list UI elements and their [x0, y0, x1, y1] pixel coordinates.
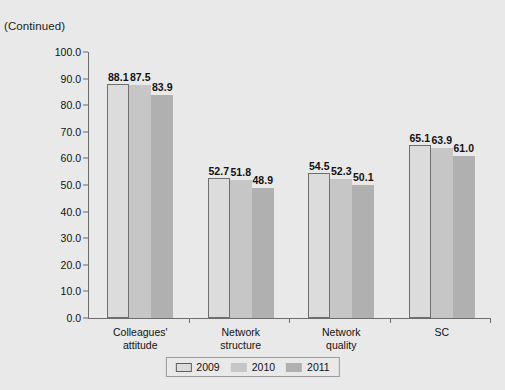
bar-value-label: 54.5	[309, 160, 329, 172]
y-axis-tick-mark	[83, 291, 88, 292]
bar-value-label: 48.9	[253, 174, 273, 186]
x-axis-category-label: SC	[434, 326, 449, 339]
bar-group-bars: 52.751.848.9	[208, 52, 274, 318]
y-axis-tick-mark	[83, 211, 88, 212]
bar-slot: 50.1	[352, 52, 374, 318]
y-axis-tick-mark	[83, 238, 88, 239]
bar[interactable]: 51.8	[230, 180, 252, 318]
bar-chart-figure: 100.090.080.070.060.050.040.030.020.010.…	[0, 40, 505, 390]
bar-group: 65.163.961.0	[409, 52, 475, 318]
bar-slot: 52.7	[208, 52, 230, 318]
bar-group-bars: 54.552.350.1	[308, 52, 374, 318]
y-axis-tick-mark	[83, 78, 88, 79]
bar-slot: 87.5	[129, 52, 151, 318]
bar[interactable]: 52.3	[330, 179, 352, 318]
x-axis-category-label: Network quality	[322, 326, 361, 351]
legend-entry[interactable]: 2009	[175, 361, 219, 373]
bar-slot: 65.1	[409, 52, 431, 318]
legend-swatch-icon	[175, 363, 191, 372]
bar-value-label: 52.3	[331, 165, 351, 177]
y-axis-tick-mark	[83, 158, 88, 159]
bar-value-label: 50.1	[353, 171, 373, 183]
x-axis-category-label: Network structure	[220, 326, 261, 351]
x-axis-tick-mark	[390, 318, 391, 323]
bar-slot: 51.8	[230, 52, 252, 318]
bar-slot: 61.0	[453, 52, 475, 318]
x-axis-tick-mark	[289, 318, 290, 323]
bar-group: 88.187.583.9	[107, 52, 173, 318]
bar-value-label: 51.8	[231, 166, 251, 178]
bar-slot: 88.1	[107, 52, 129, 318]
plot-area: 100.090.080.070.060.050.040.030.020.010.…	[88, 52, 490, 318]
bar-slot: 48.9	[252, 52, 274, 318]
bar-value-label: 65.1	[410, 132, 430, 144]
bar-group-bars: 65.163.961.0	[409, 52, 475, 318]
bar[interactable]: 54.5	[308, 173, 330, 318]
legend-label: 2011	[307, 361, 330, 373]
legend-swatch-icon	[286, 363, 302, 372]
y-axis-tick-mark	[83, 105, 88, 106]
bar-slot: 54.5	[308, 52, 330, 318]
legend-swatch-icon	[231, 363, 247, 372]
bar-group: 54.552.350.1	[308, 52, 374, 318]
bar-value-label: 52.7	[209, 165, 229, 177]
chart-screenshot: (Continued) 100.090.080.070.060.050.040.…	[0, 0, 505, 390]
x-axis-tick-mark	[490, 318, 491, 323]
bar[interactable]: 83.9	[151, 95, 173, 318]
bar-value-label: 83.9	[152, 81, 172, 93]
y-axis-tick-mark	[83, 185, 88, 186]
bar-group-bars: 88.187.583.9	[107, 52, 173, 318]
bar-group: 52.751.848.9	[208, 52, 274, 318]
chart-legend: 200920102011	[165, 357, 339, 377]
bar[interactable]: 88.1	[107, 84, 129, 318]
bar-slot: 83.9	[151, 52, 173, 318]
legend-entry[interactable]: 2011	[286, 361, 330, 373]
bar-value-label: 88.1	[108, 71, 128, 83]
x-axis-category-label: Colleagues' attitude	[113, 326, 168, 351]
bar-value-label: 87.5	[130, 71, 150, 83]
legend-label: 2009	[196, 361, 219, 373]
legend-entry[interactable]: 2010	[231, 361, 275, 373]
bar[interactable]: 65.1	[409, 145, 431, 318]
y-axis-tick-mark	[83, 318, 88, 319]
bar[interactable]: 50.1	[352, 185, 374, 318]
bar[interactable]: 52.7	[208, 178, 230, 318]
bar-value-label: 61.0	[454, 142, 474, 154]
bar-value-label: 63.9	[432, 134, 452, 146]
bar-slot: 52.3	[330, 52, 352, 318]
y-axis-tick-mark	[83, 131, 88, 132]
bar[interactable]: 63.9	[431, 148, 453, 318]
bar[interactable]: 87.5	[129, 85, 151, 318]
bar[interactable]: 61.0	[453, 156, 475, 318]
legend-label: 2010	[252, 361, 275, 373]
bar-slot: 63.9	[431, 52, 453, 318]
x-axis-tick-mark	[189, 318, 190, 323]
y-axis-tick-mark	[83, 264, 88, 265]
continued-caption: (Continued)	[4, 20, 65, 32]
bar[interactable]: 48.9	[252, 188, 274, 318]
y-axis-tick-mark	[83, 52, 88, 53]
